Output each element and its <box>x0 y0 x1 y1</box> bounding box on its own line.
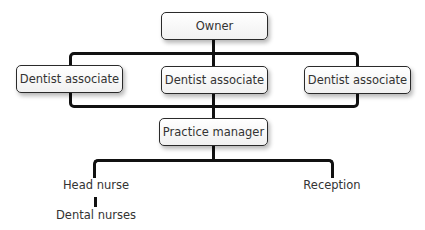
connector-to-reception <box>324 159 334 178</box>
node-dentist-associate-right: Dentist associate <box>304 66 411 94</box>
connector-frame-to-practice-manager <box>212 93 215 119</box>
node-owner: Owner <box>161 12 268 40</box>
label-head-nurse: Head nurse <box>63 178 129 192</box>
node-dentist-associate-center: Dentist associate <box>161 66 268 94</box>
connector-bottom-horizontal <box>99 159 329 162</box>
node-label: Practice manager <box>163 125 264 139</box>
node-label: Dentist associate <box>165 73 264 87</box>
org-chart: Owner Dentist associate Dentist associat… <box>0 0 425 230</box>
node-label: Dentist associate <box>308 73 407 87</box>
connector-head-nurse-to-dental-nurses <box>94 197 97 207</box>
connector-to-head-nurse <box>93 159 103 178</box>
connector-frame-to-center-associate <box>212 54 215 66</box>
node-owner-label: Owner <box>196 19 234 33</box>
node-dentist-associate-left: Dentist associate <box>16 65 123 93</box>
label-reception: Reception <box>303 178 360 192</box>
node-label: Dentist associate <box>20 72 119 86</box>
node-practice-manager: Practice manager <box>159 118 268 146</box>
label-dental-nurses: Dental nurses <box>56 208 136 222</box>
